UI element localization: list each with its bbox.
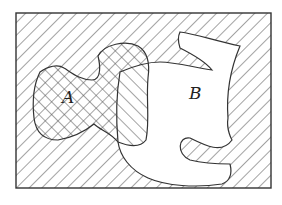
set-b-label: B bbox=[188, 83, 202, 103]
venn-diagram-svg: A B bbox=[0, 0, 282, 205]
venn-diagram-figure: A B bbox=[0, 0, 282, 205]
set-a-label: A bbox=[60, 87, 74, 107]
